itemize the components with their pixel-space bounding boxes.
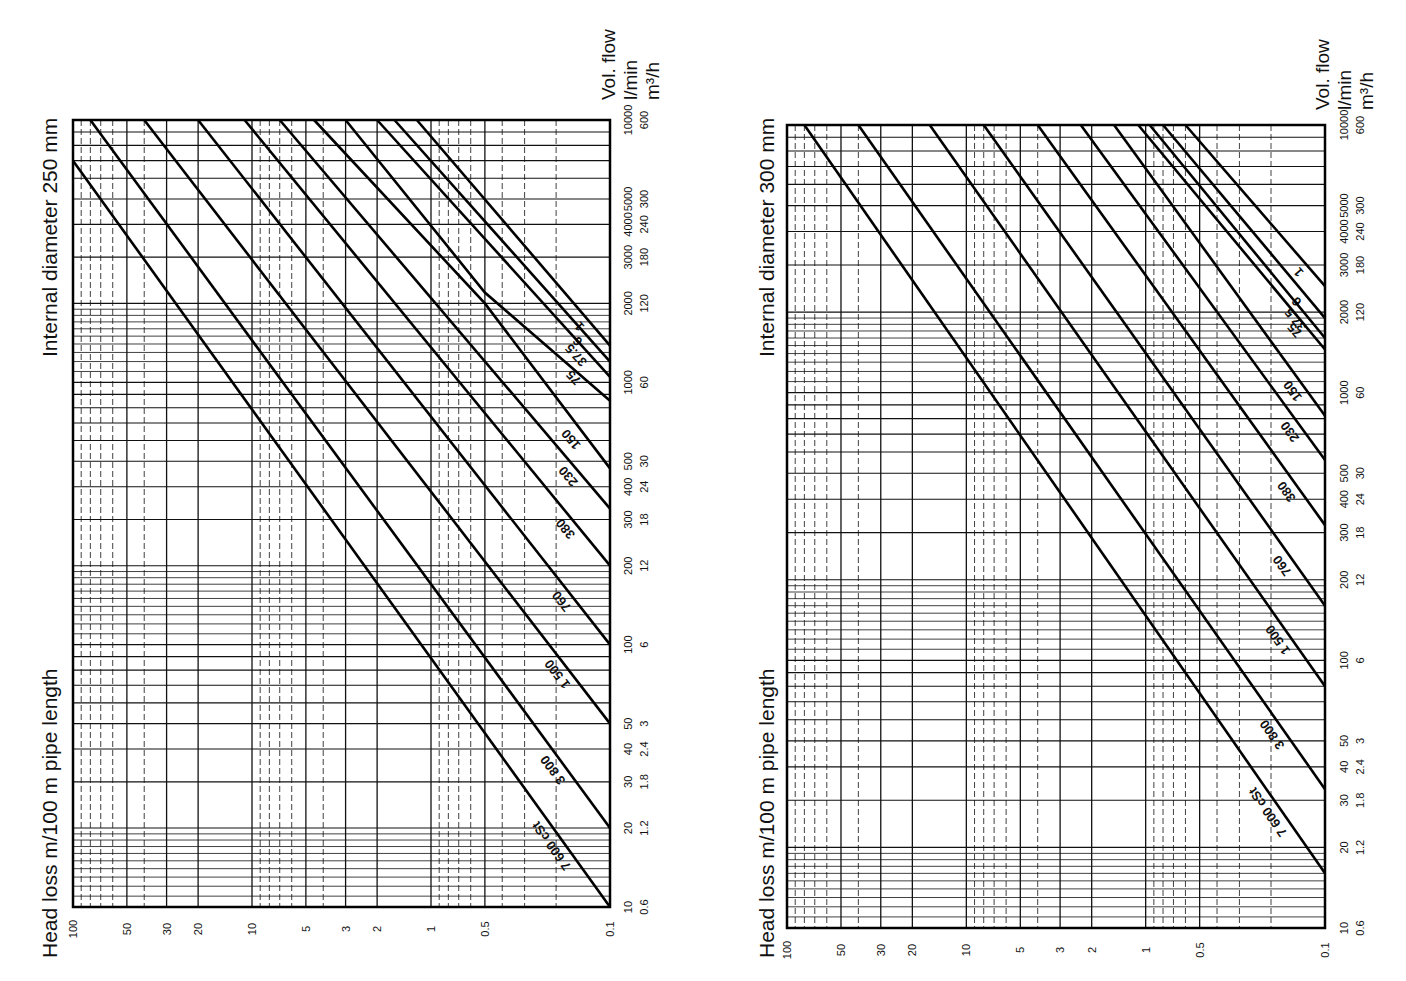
y-tick-lmin: 100 bbox=[1338, 651, 1350, 669]
y-tick-lmin: 10000 bbox=[1338, 110, 1350, 141]
curve-1-500 bbox=[930, 125, 1325, 686]
y-tick-m3h: 6 bbox=[1354, 657, 1366, 663]
x-tick-label: 3 bbox=[1054, 947, 1066, 953]
y-tick-lmin: 50 bbox=[1338, 735, 1350, 747]
chart-title-300: Internal diameter 300 mm bbox=[755, 118, 779, 357]
y-tick-m3h: 18 bbox=[1354, 526, 1366, 538]
vol-flow-label-300: Vol. flow bbox=[1312, 39, 1334, 110]
y-tick-lmin: 40 bbox=[1338, 761, 1350, 773]
y-tick-m3h: 1.8 bbox=[1354, 793, 1366, 808]
nomogram-300mm: 1637.5751502303807601 5003 8007 600 cSt1… bbox=[0, 0, 1406, 981]
x-tick-label: 20 bbox=[906, 944, 918, 956]
x-axis-label-300: Head loss m/100 m pipe length bbox=[755, 669, 779, 959]
curve-6 bbox=[1163, 125, 1325, 318]
x-tick-label: 1 bbox=[1140, 947, 1152, 953]
y-tick-lmin: 30 bbox=[1338, 794, 1350, 806]
x-tick-label: 50 bbox=[835, 944, 847, 956]
x-tick-label: 10 bbox=[960, 944, 972, 956]
y-axis-ticks: 100.6201.2301.8402.450310062001230018400… bbox=[1338, 110, 1366, 936]
unit-lmin-300: l/min bbox=[1334, 70, 1356, 110]
y-tick-lmin: 2000 bbox=[1338, 300, 1350, 324]
y-tick-m3h: 3 bbox=[1354, 738, 1366, 744]
y-tick-lmin: 1000 bbox=[1338, 380, 1350, 404]
curve-label: 1 bbox=[1290, 265, 1306, 280]
y-tick-m3h: 30 bbox=[1354, 467, 1366, 479]
y-tick-lmin: 200 bbox=[1338, 571, 1350, 589]
x-tick-label: 2 bbox=[1086, 947, 1098, 953]
y-tick-m3h: 24 bbox=[1354, 493, 1366, 505]
x-tick-label: 0.1 bbox=[1319, 942, 1331, 957]
y-tick-m3h: 120 bbox=[1354, 303, 1366, 321]
y-tick-lmin: 4000 bbox=[1338, 219, 1350, 243]
y-tick-m3h: 300 bbox=[1354, 196, 1366, 214]
y-tick-lmin: 20 bbox=[1338, 841, 1350, 853]
y-tick-lmin: 3000 bbox=[1338, 253, 1350, 277]
x-tick-label: 5 bbox=[1014, 947, 1026, 953]
curve-label: 1 500 bbox=[1262, 622, 1293, 657]
unit-m3h-300: m³/h bbox=[1356, 72, 1378, 110]
x-tick-label: 30 bbox=[875, 944, 887, 956]
y-tick-m3h: 2.4 bbox=[1354, 759, 1366, 774]
y-tick-m3h: 1.2 bbox=[1354, 840, 1366, 855]
y-tick-m3h: 12 bbox=[1354, 574, 1366, 586]
y-tick-lmin: 400 bbox=[1338, 490, 1350, 508]
chart-300mm: 1637.5751502303807601 5003 8007 600 cSt1… bbox=[0, 0, 1406, 981]
plot-frame bbox=[787, 125, 1325, 928]
x-tick-label: 100 bbox=[781, 941, 793, 959]
grid bbox=[787, 125, 1325, 928]
y-tick-m3h: 0.6 bbox=[1354, 920, 1366, 935]
y-tick-m3h: 60 bbox=[1354, 387, 1366, 399]
y-tick-m3h: 180 bbox=[1354, 256, 1366, 274]
x-axis-ticks: 1005030201053210.50.1 bbox=[781, 941, 1331, 959]
y-tick-lmin: 300 bbox=[1338, 523, 1350, 541]
y-tick-lmin: 5000 bbox=[1338, 193, 1350, 217]
x-tick-label: 0.5 bbox=[1194, 942, 1206, 957]
y-tick-m3h: 240 bbox=[1354, 222, 1366, 240]
curve-75 bbox=[1138, 125, 1325, 349]
y-tick-m3h: 600 bbox=[1354, 116, 1366, 134]
y-tick-lmin: 500 bbox=[1338, 464, 1350, 482]
curve-label: 3 800 bbox=[1256, 717, 1287, 752]
curve-760 bbox=[984, 125, 1325, 606]
y-tick-lmin: 10 bbox=[1338, 922, 1350, 934]
curve-380 bbox=[1038, 125, 1325, 525]
